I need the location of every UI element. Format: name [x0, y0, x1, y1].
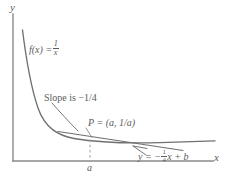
tangent-equation-prefix: y = −: [138, 151, 161, 162]
y-axis-label: y: [10, 2, 15, 13]
graph-canvas: [0, 0, 228, 188]
x-tick-label-a: a: [87, 163, 92, 173]
point-p-label: P = (a, 1/a): [88, 118, 135, 128]
function-equation-label: f(x) =1x: [29, 40, 59, 58]
math-graph-figure: y x f(x) =1x Slope is −1/4 P = (a, 1/a) …: [0, 0, 228, 188]
fraction-denominator: x: [53, 48, 59, 57]
tangent-equation-label: y = −14x + b: [138, 149, 189, 164]
tangent-equation-suffix: x + b: [167, 151, 188, 162]
slope-annotation-label: Slope is −1/4: [44, 93, 97, 103]
function-equation-prefix: f(x) =: [29, 44, 52, 55]
x-axis-label: x: [214, 152, 219, 163]
slope-leader-line: [52, 103, 78, 131]
one-over-x-fraction: 1x: [53, 40, 59, 58]
fraction-numerator: 1: [53, 40, 59, 48]
